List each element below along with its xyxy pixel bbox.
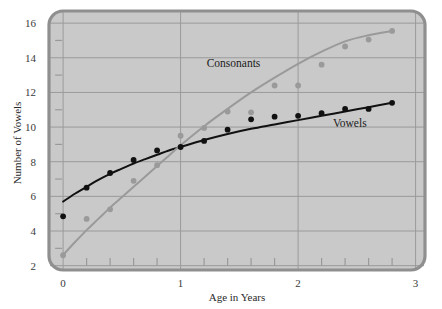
series-label-consonants: Consonants [207,57,261,69]
data-point-vowels [131,157,137,163]
data-point-consonants [366,37,372,43]
data-point-consonants [84,216,90,222]
data-point-consonants [295,83,301,89]
vowels-consonants-scatter-chart: 0123 246810121416 Age in Years Number of… [0,0,442,309]
data-point-vowels [272,114,278,120]
data-point-vowels [366,106,372,112]
data-point-vowels [225,127,231,133]
series-label-vowels: Vowels [333,117,367,129]
data-point-consonants [342,44,348,50]
x-tick-label: 0 [60,277,66,289]
y-tick-label: 14 [25,52,37,64]
data-point-consonants [131,178,137,184]
data-point-vowels [154,148,160,154]
x-tick-label: 1 [178,277,184,289]
y-tick-label: 8 [31,156,37,168]
data-point-consonants [107,206,113,212]
chart-figure: 0123 246810121416 Age in Years Number of… [0,0,442,309]
x-axis-title: Age in Years [209,291,266,303]
data-point-vowels [295,113,301,119]
y-tick-label: 12 [25,86,36,98]
y-tick-label: 4 [31,225,37,237]
data-point-consonants [225,109,231,115]
data-point-consonants [319,62,325,68]
data-point-vowels [319,110,325,116]
y-tick-label: 10 [25,121,37,133]
y-tick-label: 2 [31,260,37,272]
data-point-consonants [248,109,254,115]
data-point-consonants [272,83,278,89]
y-axis-title: Number of Vowels [11,102,23,185]
data-point-vowels [248,116,254,122]
y-tick-label: 6 [31,190,37,202]
y-tick-label: 16 [25,17,37,29]
data-point-vowels [60,213,66,219]
data-point-vowels [178,144,184,150]
data-point-vowels [342,106,348,112]
data-point-vowels [389,100,395,106]
data-point-consonants [154,162,160,168]
data-point-vowels [84,185,90,191]
x-tick-label: 2 [295,277,301,289]
data-point-vowels [201,138,207,144]
data-point-consonants [178,133,184,139]
data-point-consonants [60,252,66,258]
x-tick-label: 3 [413,277,419,289]
data-point-consonants [389,28,395,34]
data-point-vowels [107,170,113,176]
data-point-consonants [201,125,207,131]
